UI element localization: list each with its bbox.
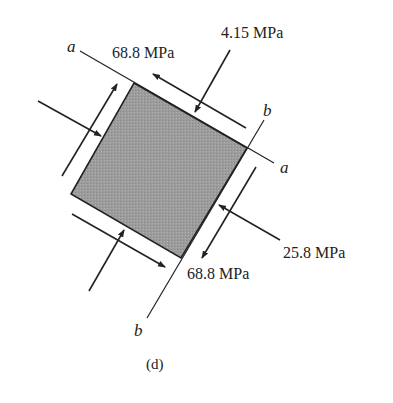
normal-arrow-bottom-face [89, 230, 124, 291]
normal-stress-label-top: 4.15 MPa [221, 24, 283, 41]
axis-label-a-right: a [280, 158, 289, 177]
axis-label-b-bottom: b [134, 321, 143, 340]
normal-arrow-right-face [219, 205, 280, 240]
normal-arrow-top-face [195, 50, 230, 112]
normal-arrow-left-face [38, 101, 101, 136]
figure-caption: (d) [146, 356, 164, 373]
stress-element [71, 83, 247, 258]
axis-label-b-top: b [263, 101, 272, 120]
axis-label-a-top: a [67, 37, 76, 56]
shear-stress-label-bottom: 68.8 MPa [187, 265, 249, 282]
shear-stress-label-top: 68.8 MPa [112, 44, 174, 61]
normal-stress-label-right: 25.8 MPa [283, 244, 345, 261]
stress-element-diagram: a 68.8 MPa 4.15 MPa b a 25.8 MPa 68.8 MP… [0, 0, 393, 403]
